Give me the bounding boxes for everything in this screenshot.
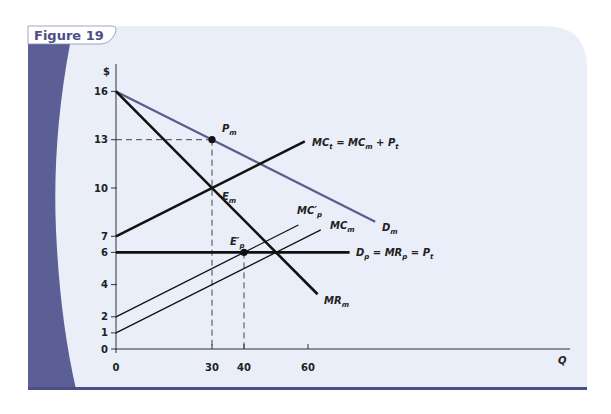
x-axis-label: Q (558, 355, 567, 366)
bottom-border (28, 387, 587, 390)
y-axis-label: $ (103, 66, 110, 77)
y-tick-label: 4 (101, 279, 108, 290)
figure-panel: Figure 19 $Q0124671013160304060DmMRmMCt … (0, 0, 611, 414)
y-tick-label: 0 (101, 344, 108, 355)
y-tick-label: 10 (94, 183, 108, 194)
figure-title: Figure 19 (34, 28, 104, 43)
x-tick-label: 0 (113, 362, 120, 373)
y-tick-label: 7 (101, 231, 108, 242)
chart-svg: Figure 19 $Q0124671013160304060DmMRmMCt … (0, 0, 611, 414)
x-tick-label: 30 (205, 362, 219, 373)
x-tick-label: 40 (237, 362, 251, 373)
y-tick-label: 13 (94, 134, 108, 145)
y-tick-label: 6 (101, 247, 108, 258)
y-tick-label: 2 (101, 311, 108, 322)
y-tick-label: 16 (94, 86, 108, 97)
y-tick-label: 1 (101, 327, 108, 338)
x-tick-label: 60 (301, 362, 315, 373)
point-marker (208, 136, 215, 143)
